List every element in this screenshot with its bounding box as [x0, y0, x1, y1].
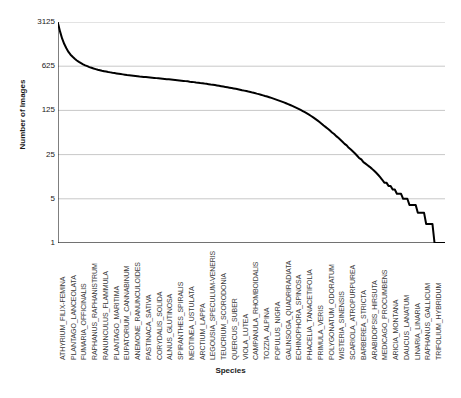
x-tick-label: PHACELIA_TANACETIFOLIA: [306, 269, 313, 360]
x-tick-label: PASTINACA_SATIVA: [145, 295, 152, 360]
x-tick-label: DAUCUS_LANATUM: [403, 295, 410, 360]
y-tick-label: 5: [3, 195, 55, 203]
x-tick-label: POLYGONATUM_ODORATUM: [328, 264, 335, 360]
x-tick-label: QUERCUS_SUBER: [231, 298, 238, 360]
y-tick-label: 25: [3, 151, 55, 159]
x-tick-label: ARABIDOPSIS_HIRSUTA: [371, 280, 378, 360]
x-tick-label: ATHYRIUM_FILIX-FEMINA: [59, 277, 66, 360]
x-tick-label: ECHINOPHORA_SPINOSA: [295, 275, 302, 360]
x-axis-title: Species: [0, 366, 461, 375]
x-tick-label: TEUCRIUM_SCORODONIA: [220, 273, 227, 360]
x-axis-tick-labels: ATHYRIUM_FILIX-FEMINAPLANTAGO_LANCEOLATA…: [58, 245, 445, 360]
species-image-count-chart: Number of Images 15251256253125 ATHYRIUM…: [0, 0, 461, 398]
x-tick-label: TRIFOLIUM_HYBRIDUM: [435, 283, 442, 360]
x-tick-label: ARICIA_MONTANA: [392, 300, 399, 360]
x-tick-label: PLANTAGO_MARITIMA: [113, 286, 120, 360]
x-tick-label: POPULUS_NIGRA: [274, 302, 281, 360]
x-tick-label: NEOTINEA_USTULATA: [188, 287, 195, 361]
x-tick-label: CAMPANULA_RHOMBOIDALIS: [252, 262, 259, 360]
y-tick-label: 625: [3, 62, 55, 70]
x-tick-label: MEDICAGO_PROCUMBENS: [381, 270, 388, 360]
x-tick-label: SPIRANTHES_SPIRALIS: [177, 282, 184, 360]
x-tick-label: ANEMONE_RANUNCULOIDES: [134, 262, 141, 360]
plot-background: [58, 22, 445, 243]
x-tick-label: LINARIA_LINARIA: [414, 303, 421, 360]
x-tick-label: RANUNCULUS_FLAMMULA: [102, 271, 109, 360]
x-tick-label: VIOLA_LUTEA: [242, 314, 249, 360]
y-tick-label: 125: [3, 106, 55, 114]
x-tick-label: RAPHANUS_GALLICUM: [424, 283, 431, 360]
x-tick-label: SCARIOLA_ATROPURPUREA: [349, 265, 356, 360]
y-axis-tick-labels: 15251256253125: [0, 0, 55, 250]
x-tick-label: CORYDALIS_SOLIDA: [156, 292, 163, 360]
x-tick-label: LEGOUSIA_SPECULUM-VENERIS: [209, 251, 216, 360]
x-tick-label: TOZZIA_ALPINA: [263, 308, 270, 360]
x-tick-label: EUPATORIUM_CANNABINUM: [123, 266, 130, 360]
x-tick-label: GALINSOGA_QUADRIRADIATA: [285, 261, 292, 360]
x-tick-label: PRIMULA_VERIS: [317, 305, 324, 360]
x-tick-label: WISTERIA_SINENSIS: [338, 291, 345, 360]
y-tick-label: 3125: [3, 18, 55, 26]
y-tick-label: 1: [3, 239, 55, 247]
x-tick-label: BARBEREA_STRICTA: [360, 290, 367, 360]
x-tick-label: RAPHANUS_RAPHANISTRUM: [91, 263, 98, 360]
x-tick-label: FUMARIA_OFFICINALIS: [80, 283, 87, 360]
x-tick-label: PLANTAGO_LANCEOLATA: [70, 275, 77, 360]
plot-area: [58, 22, 445, 243]
plot-svg: [58, 22, 445, 243]
x-tick-label: ALNUS_GLUTINOSA: [166, 294, 173, 360]
x-tick-label: ARCTIUM_LAPPA: [199, 303, 206, 360]
